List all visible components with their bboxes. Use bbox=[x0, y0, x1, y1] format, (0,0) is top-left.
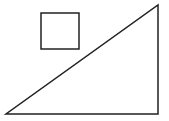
square bbox=[41, 13, 79, 49]
geometry-diagram bbox=[0, 0, 169, 121]
right-triangle bbox=[6, 5, 158, 114]
